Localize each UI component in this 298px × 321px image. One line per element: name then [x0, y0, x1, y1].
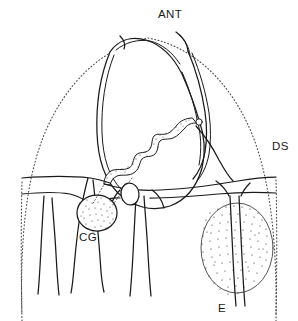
label-ant: ANT: [158, 8, 182, 20]
figure-root: ANT DS CG E: [0, 0, 298, 321]
anatomical-diagram: ANT DS CG E: [0, 0, 298, 321]
label-cg: CG: [79, 231, 97, 243]
small-node: [196, 119, 202, 125]
label-ds: DS: [272, 140, 289, 152]
label-e: E: [218, 302, 226, 314]
